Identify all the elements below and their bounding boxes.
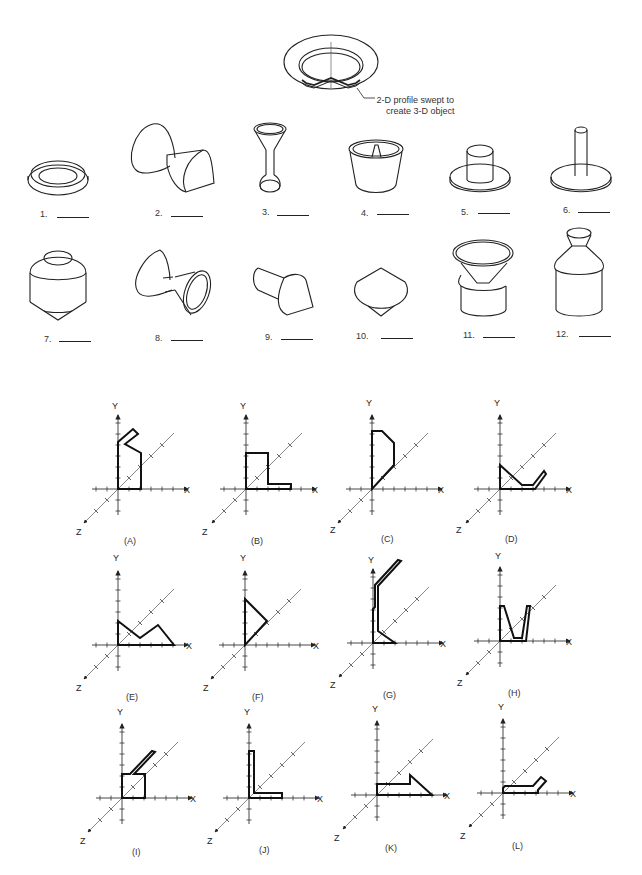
profile-b	[212, 415, 316, 523]
caption-e: (E)	[126, 692, 138, 702]
axis-x-label: X	[184, 485, 190, 495]
caption-b: (B)	[251, 536, 263, 546]
axis-x-label: X	[566, 637, 572, 647]
object-11-funnel-on-cylinder	[453, 240, 513, 316]
object-10-double-cone	[355, 268, 408, 316]
profile-j	[215, 724, 319, 832]
caption-d: (D)	[505, 534, 518, 544]
callout-line-2: create 3-D object	[376, 106, 455, 117]
object-label-8: 8.	[155, 333, 163, 343]
worksheet-drawings	[0, 0, 642, 875]
axis-y-label: Y	[495, 551, 501, 561]
axis-x-label: X	[440, 639, 446, 649]
caption-f: (F)	[252, 692, 264, 702]
answer-blank-3[interactable]	[277, 215, 309, 216]
object-4-bowl-with-spike	[349, 140, 403, 193]
swept-profile-example	[284, 35, 378, 98]
object-2-tilted-cones	[131, 124, 214, 192]
axis-z-label: Z	[456, 525, 462, 535]
object-label-5: 5.	[461, 207, 469, 217]
answer-blank-9[interactable]	[281, 339, 313, 340]
axis-y-label: Y	[112, 401, 118, 411]
object-8-horn-cones	[136, 250, 216, 317]
answer-blank-1[interactable]	[57, 217, 89, 218]
axis-y-label: Y	[240, 553, 246, 563]
axis-z-label: Z	[334, 833, 340, 843]
object-label-12: 12.	[556, 329, 569, 339]
object-label-7: 7.	[44, 334, 52, 344]
object-label-2: 2.	[155, 208, 163, 218]
profile-c	[338, 415, 442, 523]
profile-d	[466, 415, 570, 523]
object-label-10: 10.	[356, 331, 369, 341]
object-5-cylinder-on-disc	[450, 145, 510, 192]
object-label-3: 3.	[262, 207, 270, 217]
axis-y-label: Y	[368, 555, 374, 565]
profile-e	[84, 571, 188, 679]
caption-g: (G)	[383, 690, 396, 700]
axis-z-label: Z	[203, 683, 209, 693]
answer-blank-2[interactable]	[171, 216, 203, 217]
object-label-6: 6.	[563, 205, 571, 215]
answer-blank-11[interactable]	[483, 337, 515, 338]
caption-j: (J)	[259, 845, 270, 855]
profile-f	[211, 571, 315, 679]
object-3-goblet	[254, 123, 286, 192]
caption-i: (I)	[132, 847, 141, 857]
caption-h: (H)	[508, 688, 521, 698]
profile-callout: 2-D profile swept to create 3-D object	[376, 95, 455, 117]
axis-x-label: X	[312, 485, 318, 495]
object-7-capped-cylinder	[30, 251, 86, 320]
object-6-pin-on-disc	[551, 127, 611, 192]
caption-a: (A)	[124, 536, 136, 546]
axis-x-label: X	[313, 641, 319, 651]
axis-y-label: Y	[498, 702, 504, 712]
answer-blank-7[interactable]	[59, 341, 91, 342]
answer-blank-10[interactable]	[381, 338, 413, 339]
axis-y-label: Y	[494, 398, 500, 408]
object-label-4: 4.	[361, 208, 369, 218]
profile-a	[84, 415, 188, 523]
object-label-11: 11.	[463, 330, 475, 340]
object-1-ring	[28, 161, 88, 195]
axis-z-label: Z	[207, 836, 213, 846]
axis-y-label: Y	[372, 704, 378, 714]
profile-h	[466, 567, 570, 675]
answer-blank-8[interactable]	[171, 340, 203, 341]
object-12-bottle	[555, 228, 604, 316]
axis-x-label: X	[444, 791, 450, 801]
axis-x-label: X	[186, 641, 192, 651]
object-9-cylinder-and-cone	[254, 268, 314, 315]
answer-blank-4[interactable]	[377, 214, 409, 215]
answer-blank-6[interactable]	[578, 212, 610, 213]
profile-i	[88, 724, 192, 832]
object-label-1: 1.	[40, 209, 48, 219]
axis-x-label: X	[438, 485, 444, 495]
profile-l	[469, 719, 573, 827]
axis-z-label: Z	[330, 680, 336, 690]
axis-y-label: Y	[117, 707, 123, 717]
caption-k: (K)	[385, 843, 397, 853]
axis-z-label: Z	[460, 831, 466, 841]
axis-x-label: X	[317, 794, 323, 804]
caption-c: (C)	[381, 534, 394, 544]
axis-z-label: Z	[76, 527, 82, 537]
answer-blank-12[interactable]	[579, 336, 611, 337]
caption-l: (L)	[512, 841, 523, 851]
axis-x-label: X	[570, 789, 576, 799]
axis-y-label: Y	[113, 553, 119, 563]
profile-k	[343, 721, 447, 829]
axis-y-label: Y	[240, 401, 246, 411]
axis-z-label: Z	[330, 525, 336, 535]
axis-x-label: X	[566, 485, 572, 495]
axis-y-label: Y	[366, 398, 372, 408]
axis-y-label: Y	[244, 707, 250, 717]
axis-x-label: X	[190, 794, 196, 804]
callout-line-1: 2-D profile swept to	[376, 95, 455, 106]
axis-z-label: Z	[80, 836, 86, 846]
answer-blank-5[interactable]	[478, 213, 510, 214]
profile-g	[339, 560, 443, 677]
axis-z-label: Z	[76, 683, 82, 693]
axis-z-label: Z	[202, 527, 208, 537]
object-label-9: 9.	[265, 332, 273, 342]
